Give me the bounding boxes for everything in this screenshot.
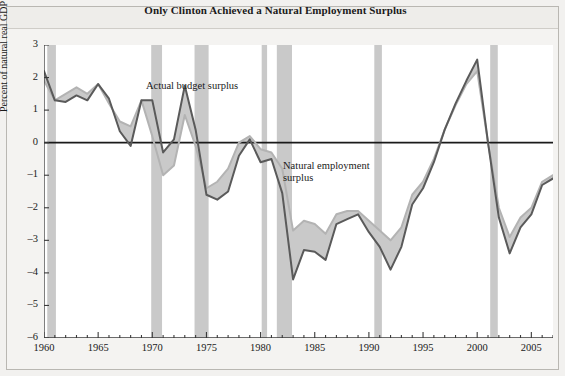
- recession-bands-group: [47, 45, 498, 338]
- y-tick-label: 0: [16, 136, 38, 147]
- y-tick-label: 1: [16, 103, 38, 114]
- x-tick-label: 1980: [241, 342, 281, 353]
- recession-band: [262, 45, 267, 338]
- x-tick-label: 1970: [132, 342, 172, 353]
- y-tick-label: –2: [16, 201, 38, 212]
- y-axis-label: Percent of natural real GDP: [0, 1, 9, 112]
- x-tick-label: 1960: [24, 342, 64, 353]
- y-tick-label: –6: [16, 331, 38, 342]
- y-tick-label: 3: [16, 38, 38, 49]
- y-tick-label: –4: [16, 266, 38, 277]
- tick-marks-group: [44, 45, 553, 338]
- y-tick-label: –5: [16, 298, 38, 309]
- x-tick-label: 1995: [403, 342, 443, 353]
- recession-band: [374, 45, 382, 338]
- y-tick-label: –3: [16, 233, 38, 244]
- x-tick-label: 1975: [186, 342, 226, 353]
- x-tick-label: 2000: [457, 342, 497, 353]
- series-line: [44, 71, 553, 240]
- x-tick-label: 1985: [295, 342, 335, 353]
- annotation-actual-budget-surplus: Actual budget surplus: [146, 80, 238, 92]
- figure-container: Only Clinton Achieved a Natural Employme…: [0, 0, 565, 376]
- x-tick-label: 2005: [511, 342, 551, 353]
- plot-area: [44, 45, 553, 338]
- y-tick-label: –1: [16, 168, 38, 179]
- axis-lines-group: [44, 45, 553, 338]
- annotation-natural-employment-surplus: Natural employment surplus: [283, 160, 370, 184]
- chart-svg: [44, 45, 553, 338]
- chart-title: Only Clinton Achieved a Natural Employme…: [0, 4, 551, 16]
- x-tick-label: 1965: [78, 342, 118, 353]
- x-tick-label: 1990: [349, 342, 389, 353]
- y-tick-label: 2: [16, 71, 38, 82]
